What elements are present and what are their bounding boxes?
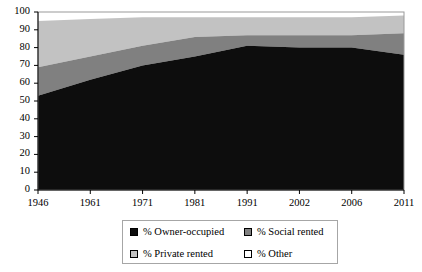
legend-swatch-icon <box>130 250 138 258</box>
chart-legend: % Owner-occupied% Social rented% Private… <box>122 220 338 264</box>
y-tick-label: 100 <box>4 5 30 16</box>
legend-label: % Owner-occupied <box>143 227 224 238</box>
legend-grid: % Owner-occupied% Social rented% Private… <box>123 221 337 263</box>
legend-label: % Other <box>257 249 292 260</box>
y-tick-label: 90 <box>4 23 30 34</box>
x-tick-label: 2002 <box>279 197 319 208</box>
x-tick-label: 2006 <box>332 197 372 208</box>
x-tick-label: 2011 <box>384 197 422 208</box>
legend-label: % Private rented <box>143 249 213 260</box>
x-tick-label: 1946 <box>18 197 58 208</box>
y-tick-label: 60 <box>4 76 30 87</box>
stacked-area-chart: 0102030405060708090100 19461961197119811… <box>0 0 422 272</box>
y-tick-label: 30 <box>4 130 30 141</box>
x-tick-label: 1971 <box>123 197 163 208</box>
y-tick-label: 40 <box>4 112 30 123</box>
y-tick-label: 50 <box>4 94 30 105</box>
y-tick-label: 80 <box>4 41 30 52</box>
legend-swatch-icon <box>244 250 252 258</box>
y-tick-label: 10 <box>4 165 30 176</box>
legend-label: % Social rented <box>257 227 323 238</box>
legend-item[interactable]: % Private rented <box>123 249 237 260</box>
legend-item[interactable]: % Social rented <box>237 227 337 238</box>
y-tick-label: 70 <box>4 58 30 69</box>
y-tick-label: 0 <box>4 183 30 194</box>
x-axis-ticks <box>38 190 404 194</box>
legend-item[interactable]: % Owner-occupied <box>123 227 237 238</box>
y-tick-label: 20 <box>4 147 30 158</box>
legend-swatch-icon <box>244 228 252 236</box>
legend-item[interactable]: % Other <box>237 249 337 260</box>
x-tick-label: 1961 <box>70 197 110 208</box>
x-tick-label: 1991 <box>227 197 267 208</box>
y-axis-ticks <box>34 12 38 190</box>
x-tick-label: 1981 <box>175 197 215 208</box>
legend-swatch-icon <box>130 228 138 236</box>
